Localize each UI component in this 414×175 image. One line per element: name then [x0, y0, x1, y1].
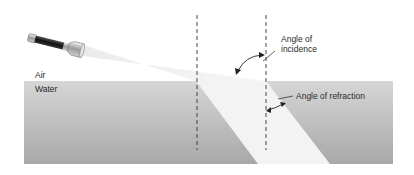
- incidence-angle-arc: [238, 55, 262, 71]
- light-beam-air: [80, 44, 266, 81]
- incidence-label-line2: incidence: [281, 44, 317, 54]
- water-label: Water: [35, 84, 58, 94]
- incidence-label-line1: Angle of: [281, 34, 313, 44]
- flashlight-icon: [27, 30, 86, 57]
- incidence-arrowhead-icon: [235, 68, 241, 75]
- refraction-label: Angle of refraction: [296, 91, 365, 101]
- refraction-diagram: Air Water Angle of incidence Angle of re…: [0, 0, 414, 175]
- air-label: Air: [35, 70, 46, 80]
- incidence-leader-line: [263, 51, 275, 61]
- incidence-arrowhead-top-icon: [259, 52, 265, 58]
